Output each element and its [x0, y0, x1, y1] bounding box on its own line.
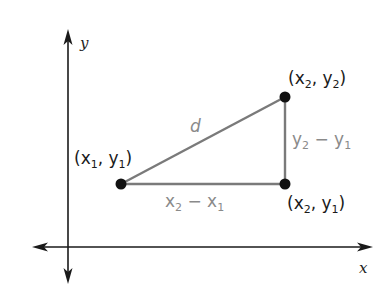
vertical-leg-label: y2 − y1	[292, 129, 351, 152]
y-axis-label: y	[79, 34, 89, 52]
point-x2-y2	[280, 92, 291, 103]
y-axis	[64, 29, 73, 284]
horizontal-leg-label: x2 − x1	[165, 191, 224, 214]
point-x1-y1	[116, 179, 127, 190]
hypotenuse-segment	[121, 97, 285, 184]
point-x2-y1	[280, 179, 291, 190]
point-label-x2-y2: (x2, y2)	[288, 68, 346, 91]
hypotenuse-label: d	[190, 116, 201, 136]
point-label-x1-y1: (x1, y1)	[74, 148, 132, 171]
x-axis-label: x	[359, 259, 368, 277]
point-label-x2-y1: (x2, y1)	[287, 193, 345, 216]
x-axis	[32, 243, 373, 252]
coordinate-diagram: y x d (x1, y1) (x2, y2) (x2, y1) x2 − x1…	[0, 0, 381, 304]
